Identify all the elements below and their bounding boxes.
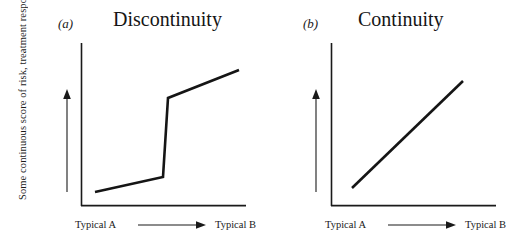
panel-b-right-arrow-icon — [388, 221, 456, 228]
panel-b-continuity: (b) Continuity Typical A Typical B — [270, 0, 526, 245]
panel-a-discontinuity: (a) Discontinuity Some continuous score … — [0, 0, 270, 245]
panel-a-up-arrow-icon — [63, 89, 71, 192]
panel-b-x-tick-left: Typical A — [325, 219, 366, 230]
panel-a-plot-area — [0, 0, 270, 245]
panel-b-x-tick-right: Typical B — [465, 219, 506, 230]
panel-b-data-line-continuous — [352, 81, 463, 188]
panel-a-x-tick-left: Typical A — [75, 219, 116, 230]
panel-a-right-arrow-icon — [138, 221, 206, 228]
panel-b-plot-area — [270, 0, 526, 245]
panel-a-x-tick-right: Typical B — [215, 219, 256, 230]
panel-a-data-line-discontinuous — [95, 70, 239, 192]
figure-discontinuity-vs-continuity: (a) Discontinuity Some continuous score … — [0, 0, 526, 245]
panel-b-up-arrow-icon — [312, 89, 320, 192]
